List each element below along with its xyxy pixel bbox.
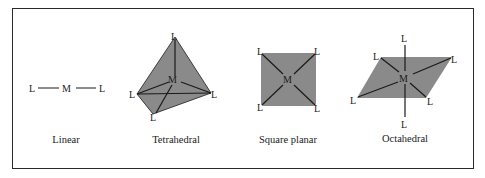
tetrahedral-geometry: L M L L L Tetrahedral xyxy=(129,31,217,145)
metal-label: M xyxy=(283,74,292,85)
ligand-label: L xyxy=(129,89,135,100)
geometry-caption: Tetrahedral xyxy=(152,134,200,145)
geometry-caption: Linear xyxy=(52,134,80,145)
ligand-label: L xyxy=(451,54,457,65)
ligand-label: L xyxy=(350,95,356,106)
ligand-label: L xyxy=(401,33,407,44)
metal-label: M xyxy=(399,73,408,84)
coordination-geometries-diagram: L M L Linear L M L L L Tetrahedral L L M… xyxy=(0,0,485,178)
ligand-label: L xyxy=(171,31,177,42)
metal-label: M xyxy=(62,83,71,94)
geometry-caption: Square planar xyxy=(259,134,318,145)
square-planar-geometry: L L M L L Square planar xyxy=(257,46,320,145)
ligand-label: L xyxy=(257,102,263,113)
geometry-caption: Octahedral xyxy=(382,133,428,144)
ligand-label: L xyxy=(401,119,407,130)
linear-geometry: L M L Linear xyxy=(29,83,105,146)
ligand-label: L xyxy=(373,51,379,62)
metal-label: M xyxy=(168,74,177,85)
ligand-label: L xyxy=(99,83,105,94)
octahedral-geometry: L L L M L L L Octahedral xyxy=(350,33,457,144)
ligand-label: L xyxy=(29,83,35,94)
ligand-label: L xyxy=(427,96,433,107)
ligand-label: L xyxy=(314,103,320,114)
ligand-label: L xyxy=(314,46,320,57)
ligand-label: L xyxy=(211,89,217,100)
ligand-label: L xyxy=(150,112,156,123)
ligand-label: L xyxy=(257,46,263,57)
